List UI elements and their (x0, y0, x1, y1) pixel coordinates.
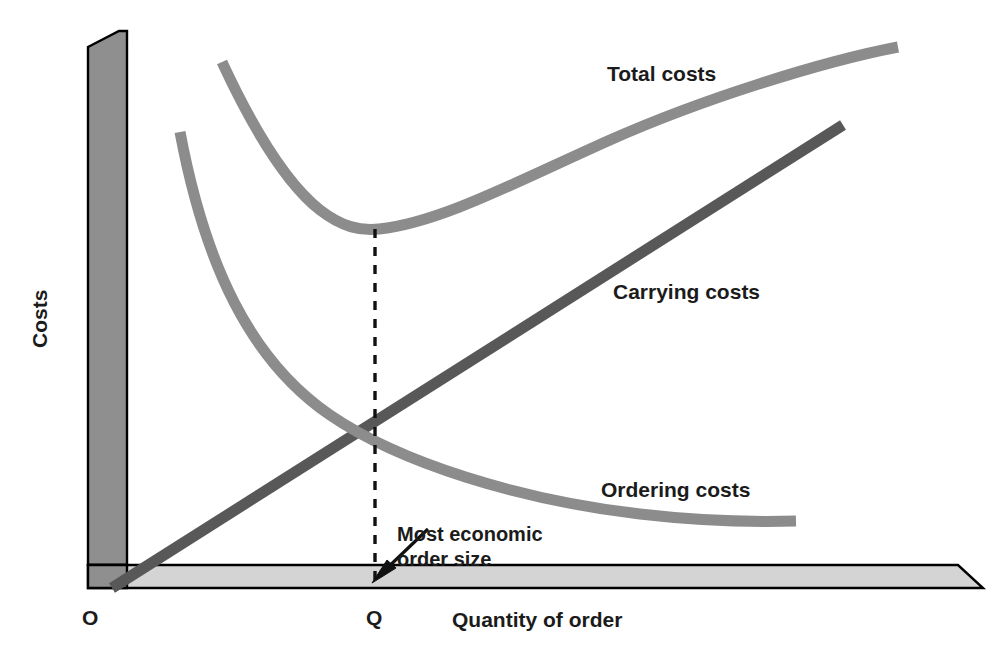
total-costs-label: Total costs (607, 62, 716, 85)
total-costs-curve (222, 47, 898, 229)
costs-axis-slab (88, 31, 127, 565)
carrying-costs-label: Carrying costs (613, 280, 760, 303)
most-economic-order-size-line2: order size (397, 548, 491, 570)
quantity-axis-slab (88, 565, 983, 588)
eoq-tick-label: Q (366, 606, 382, 629)
ordering-costs-label: Ordering costs (601, 478, 750, 501)
quantity-axis-title: Quantity of order (452, 608, 622, 631)
most-economic-order-size-line1: Most economic (397, 523, 543, 545)
eoq-chart: Total costs Carrying costs Ordering cost… (0, 0, 1004, 656)
eoq-chart-canvas: Total costs Carrying costs Ordering cost… (0, 0, 1004, 656)
costs-axis-title: Costs (28, 290, 51, 348)
origin-tick-label: O (82, 606, 98, 629)
